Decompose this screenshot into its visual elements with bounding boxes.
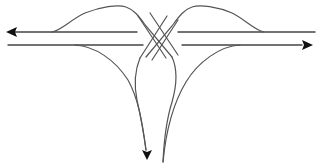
vertical-lane-left: [135, 58, 146, 150]
down-arrowhead-icon: [142, 150, 152, 160]
braid-strand-1: [138, 16, 166, 58]
right-arrowhead-icon: [302, 40, 313, 50]
braid-strand-4: [152, 20, 178, 60]
ramp-bottom-left: [75, 45, 146, 150]
interchange-diagram: [0, 0, 320, 166]
braid-strand-2: [150, 13, 178, 55]
